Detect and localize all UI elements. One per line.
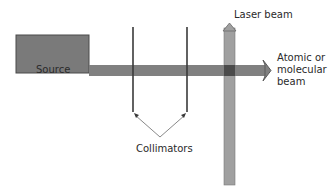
laser-beam bbox=[224, 28, 235, 185]
laser-beam-arrowhead bbox=[223, 23, 236, 31]
collimators-label: Collimators bbox=[136, 143, 193, 155]
atomic-beam-label: Atomic or molecular beam bbox=[277, 52, 333, 88]
laser-atomic-beam-diagram: Source Laser beam Atomic or molecular be… bbox=[0, 0, 334, 187]
pointer-right bbox=[160, 115, 185, 137]
pointer-left-arrowhead bbox=[134, 113, 139, 118]
pointer-right-arrowhead bbox=[181, 113, 186, 118]
diagram-canvas bbox=[0, 0, 334, 187]
beam-intersection bbox=[224, 65, 235, 76]
pointer-left bbox=[135, 115, 160, 137]
atomic-beam bbox=[89, 65, 265, 76]
source-label: Source bbox=[36, 64, 70, 76]
laser-beam-label: Laser beam bbox=[234, 9, 293, 21]
